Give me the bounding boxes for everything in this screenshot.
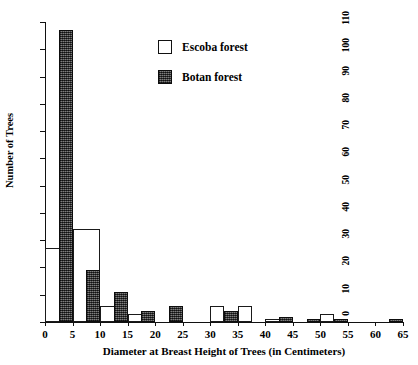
x-tick-label: 60	[370, 328, 381, 340]
x-tick	[265, 322, 266, 326]
x-tick	[238, 322, 239, 326]
y-tick-label: 10	[342, 284, 352, 294]
x-tick-label: 65	[398, 328, 409, 340]
legend-item-escoba: Escoba forest	[158, 40, 248, 54]
y-tick	[40, 213, 45, 214]
legend-swatch-botan-icon	[158, 70, 172, 84]
y-tick-label: 60	[342, 147, 352, 157]
y-axis-title: Number of Trees	[2, 0, 16, 300]
x-tick-label: 50	[315, 328, 326, 340]
y-tick-label: 80	[342, 93, 352, 103]
x-tick	[403, 322, 404, 326]
bar-botan	[141, 311, 155, 322]
bar-botan	[334, 319, 348, 322]
x-axis-title: Diameter at Breast Height of Trees (in C…	[45, 345, 403, 357]
y-tick	[40, 104, 45, 105]
x-axis-line	[45, 322, 403, 323]
y-tick-label: 110	[342, 11, 352, 25]
legend-label-botan: Botan forest	[182, 71, 242, 83]
y-tick	[40, 240, 45, 241]
y-tick-label: 0	[342, 311, 352, 316]
x-tick	[210, 322, 211, 326]
x-tick	[100, 322, 101, 326]
x-tick	[155, 322, 156, 326]
legend-label-escoba: Escoba forest	[182, 41, 248, 53]
y-tick-label: 20	[342, 256, 352, 266]
bar-botan	[279, 317, 293, 322]
bar-escoba	[210, 306, 224, 322]
x-tick-label: 10	[95, 328, 106, 340]
x-tick	[128, 322, 129, 326]
y-tick-label: 30	[342, 229, 352, 239]
y-tick	[40, 49, 45, 50]
y-tick-label: 90	[342, 66, 352, 76]
chart-figure: Number of Trees 010203040506070809010011…	[0, 0, 418, 365]
legend-item-botan: Botan forest	[158, 70, 248, 84]
bar-botan	[86, 270, 100, 322]
bar-botan	[114, 292, 128, 322]
x-tick	[183, 322, 184, 326]
bar-botan	[389, 319, 403, 322]
x-tick-label: 45	[287, 328, 298, 340]
x-tick-label: 0	[42, 328, 48, 340]
chart-legend: Escoba forest Botan forest	[158, 40, 248, 100]
x-tick	[375, 322, 376, 326]
y-tick-label: 70	[342, 120, 352, 130]
bar-botan	[59, 30, 73, 322]
legend-swatch-escoba-icon	[158, 40, 172, 54]
bar-botan	[169, 306, 183, 322]
x-tick-label: 5	[70, 328, 76, 340]
bar-escoba	[238, 306, 252, 322]
y-tick	[40, 186, 45, 187]
bar-escoba	[320, 314, 334, 322]
bar-botan	[224, 311, 238, 322]
x-tick-label: 55	[342, 328, 353, 340]
x-tick-label: 25	[177, 328, 188, 340]
x-tick	[293, 322, 294, 326]
y-tick	[40, 22, 45, 23]
x-tick-label: 30	[205, 328, 216, 340]
y-tick-label: 50	[342, 175, 352, 185]
x-tick-label: 40	[260, 328, 271, 340]
x-tick	[320, 322, 321, 326]
x-tick-label: 15	[122, 328, 133, 340]
x-tick-label: 20	[150, 328, 161, 340]
y-tick-label: 100	[342, 38, 352, 52]
y-tick	[40, 158, 45, 159]
y-tick	[40, 77, 45, 78]
x-tick	[73, 322, 74, 326]
x-tick-label: 35	[232, 328, 243, 340]
x-tick	[348, 322, 349, 326]
x-tick	[45, 322, 46, 326]
bar-botan	[307, 319, 321, 322]
y-tick-label: 40	[342, 202, 352, 212]
y-tick	[40, 131, 45, 132]
